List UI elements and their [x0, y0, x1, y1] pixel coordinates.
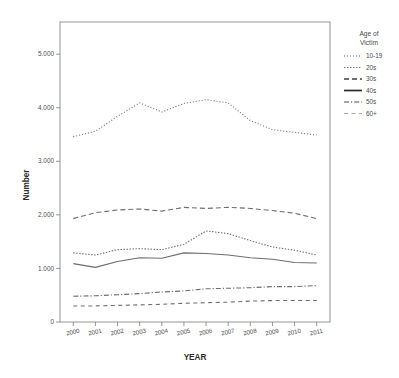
- legend-label-20s: 20s: [366, 64, 376, 71]
- legend-label-30s: 30s: [366, 75, 376, 82]
- series-line-60-: [73, 301, 316, 306]
- x-tick-label: 2010: [287, 326, 302, 336]
- x-tick-label: 2002: [110, 326, 125, 336]
- legend-label-50s: 50s: [366, 98, 376, 105]
- x-tick-label: 2001: [87, 326, 102, 336]
- y-tick-label: 5.000: [38, 50, 54, 57]
- x-axis-title: YEAR: [184, 353, 207, 362]
- y-axis: 01.0002.0003.0004.0005.000: [38, 50, 60, 325]
- y-tick-label: 4.000: [38, 104, 54, 111]
- x-tick-label: 2004: [154, 326, 169, 336]
- legend-label-40s: 40s: [366, 87, 376, 94]
- x-tick-label: 2007: [220, 326, 235, 336]
- y-tick-label: 3.000: [38, 157, 54, 164]
- y-axis-title: Number: [22, 169, 31, 201]
- legend-title-line-1: Age of: [359, 30, 378, 38]
- x-tick-label: 2003: [132, 326, 147, 336]
- data-series-group: [73, 100, 316, 306]
- x-tick-label: 2008: [242, 326, 257, 336]
- y-tick-label: 2.000: [38, 211, 54, 218]
- x-tick-label: 2009: [265, 326, 280, 336]
- series-line-20s: [73, 231, 316, 255]
- line-chart-figure: 01.0002.0003.0004.0005.000 2000200120022…: [0, 0, 399, 378]
- plot-area-border: [60, 22, 330, 322]
- x-tick-label: 2011: [309, 327, 324, 337]
- series-line-30s: [73, 207, 316, 218]
- legend-label-10-19: 10-19: [366, 52, 383, 59]
- x-tick-label: 2005: [176, 326, 191, 336]
- legend-entries: 10-1920s30s40s50s60+: [344, 52, 383, 117]
- x-axis: 2000200120022003200420052006200720082009…: [65, 322, 324, 336]
- legend-title-line-2: Victim: [360, 39, 378, 46]
- legend: Age of Victim 10-1920s30s40s50s60+: [344, 30, 383, 117]
- legend-label-60-: 60+: [366, 110, 377, 117]
- series-line-50s: [73, 286, 316, 297]
- y-tick-label: 1.000: [38, 265, 54, 272]
- y-tick-label: 0: [50, 318, 54, 325]
- x-tick-label: 2000: [65, 326, 80, 336]
- series-line-40s: [73, 253, 316, 267]
- series-line-10-19: [73, 100, 316, 137]
- x-tick-label: 2006: [198, 326, 213, 336]
